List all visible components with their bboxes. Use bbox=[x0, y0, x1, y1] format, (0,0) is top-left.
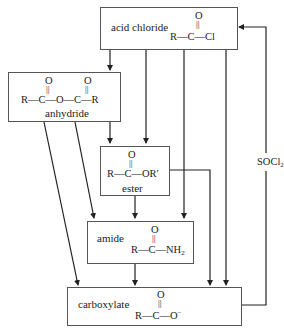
carboxylate-formula-charge: − bbox=[178, 309, 182, 317]
ester-label: ester bbox=[122, 183, 143, 194]
amide-node: amide O || R—C—NH2 bbox=[87, 221, 194, 264]
acid-chloride-node: acid chloride O || R—C—Cl bbox=[100, 7, 238, 50]
reagent-label-socl2: SOCl2 bbox=[257, 157, 284, 169]
anhydride-double-bond-1: || bbox=[46, 85, 50, 94]
acid-chloride-double-bond: || bbox=[196, 20, 200, 29]
ester-double-bond: || bbox=[129, 159, 133, 168]
acid-chloride-label: acid chloride bbox=[111, 22, 168, 33]
anhydride-double-bond-2: || bbox=[85, 85, 89, 94]
amide-formula-main: R—C—NH bbox=[131, 244, 181, 255]
ester-node: O || R—C—OR′ ester bbox=[100, 146, 170, 196]
reagent-label-subscript: 2 bbox=[280, 161, 284, 169]
carboxylate-label: carboxylate bbox=[78, 299, 129, 310]
amide-label: amide bbox=[97, 233, 124, 244]
acid-chloride-formula: R—C—Cl bbox=[170, 32, 215, 43]
anhydride-formula: R—C—O—C—R bbox=[21, 95, 99, 106]
carboxylate-double-bond: || bbox=[158, 299, 162, 308]
amide-formula-subscript: 2 bbox=[181, 249, 185, 257]
arrow-anhydride-to-amide bbox=[75, 122, 94, 218]
amide-double-bond: || bbox=[152, 234, 156, 243]
amide-formula: R—C—NH2 bbox=[131, 245, 185, 257]
ester-formula: R—C—OR′ bbox=[107, 169, 159, 180]
carboxylate-formula: R—C—O− bbox=[135, 310, 182, 322]
arrow-anhydride-to-carboxylate bbox=[44, 122, 78, 285]
carboxylate-formula-main: R—C—O bbox=[135, 310, 178, 321]
reagent-label-main: SOCl bbox=[257, 156, 280, 167]
anhydride-label: anhydride bbox=[45, 108, 89, 119]
anhydride-node: O || O || R—C—O—C—R anhydride bbox=[8, 72, 121, 122]
carboxylate-node: carboxylate O || R—C—O− bbox=[67, 287, 242, 326]
